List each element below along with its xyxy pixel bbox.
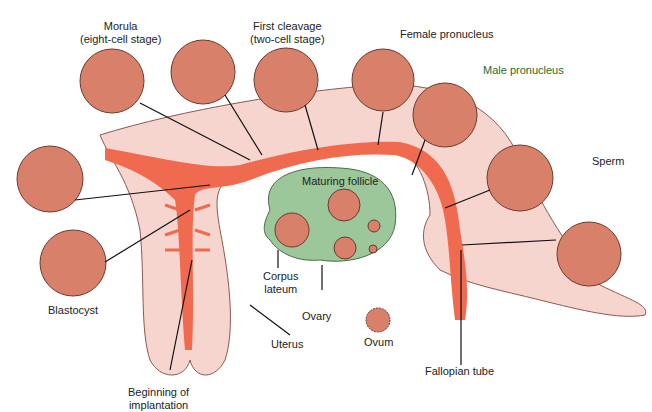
label-maturing-follicle: Maturing follicle xyxy=(302,175,378,188)
label-morula: Morula(eight-cell stage) xyxy=(80,20,161,46)
mitosis-cell xyxy=(352,49,414,111)
label-sperm: Sperm xyxy=(592,155,624,168)
two-cell xyxy=(254,48,318,112)
ovum xyxy=(366,308,390,332)
diagram-canvas xyxy=(0,0,652,412)
label-ovary: Ovary xyxy=(302,310,331,323)
blastocyst xyxy=(40,230,106,296)
sperm-entry-cell xyxy=(487,145,553,211)
corpus-lateum xyxy=(275,213,309,247)
label-corpus-lateum: Corpuslateum xyxy=(263,270,298,296)
label-uterus: Uterus xyxy=(271,338,303,351)
label-ovum: Ovum xyxy=(364,336,393,349)
label-female-pronucleus: Female pronucleus xyxy=(400,28,494,41)
pronucleus-cell xyxy=(413,83,477,147)
maturing-follicle xyxy=(328,189,360,221)
morula-cell xyxy=(80,49,144,113)
sperm-cell xyxy=(557,222,621,286)
label-implantation: Beginning ofimplantation xyxy=(128,386,189,412)
label-male-pronucleus: Male pronucleus xyxy=(483,64,564,77)
label-blastocyst: Blastocyst xyxy=(48,304,98,317)
blastocyst-early xyxy=(17,146,83,212)
label-first-cleavage: First cleavage(two-cell stage) xyxy=(250,20,325,46)
label-fallopian-tube: Fallopian tube xyxy=(425,365,494,378)
four-cell xyxy=(171,40,235,104)
